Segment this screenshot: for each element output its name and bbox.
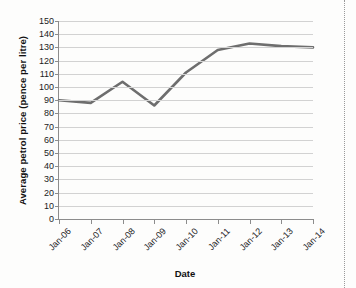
y-tick-mark <box>55 206 59 207</box>
x-tick-mark <box>281 219 282 224</box>
gridline-horizontal <box>59 140 313 141</box>
x-tick-label: Jan-12 <box>232 226 263 257</box>
y-tick-label: 40 <box>30 162 54 171</box>
gridline-horizontal <box>59 21 313 22</box>
x-tick-label: Jan-11 <box>201 226 232 257</box>
y-tick-label: 50 <box>30 149 54 158</box>
x-tick-label: Jan-14 <box>296 226 327 257</box>
y-axis-tick-labels: 0102030405060708090100110120130140150 <box>30 15 54 225</box>
x-tick-mark <box>123 219 124 224</box>
y-tick-mark <box>55 140 59 141</box>
y-tick-label: 110 <box>30 69 54 78</box>
x-tick-mark <box>250 219 251 224</box>
y-tick-label: 20 <box>30 188 54 197</box>
y-tick-mark <box>55 179 59 180</box>
x-tick-label: Jan-09 <box>137 226 168 257</box>
y-tick-label: 130 <box>30 43 54 52</box>
x-tick-label: Jan-08 <box>105 226 136 257</box>
line-chart-figure: Average petrol price (pence per litre) 0… <box>0 0 344 288</box>
y-tick-mark <box>55 100 59 101</box>
x-tick-label: Jan-07 <box>74 226 105 257</box>
x-tick-mark <box>313 219 314 224</box>
y-tick-mark <box>55 34 59 35</box>
x-tick-label: Jan-06 <box>42 226 73 257</box>
gridline-horizontal <box>59 153 313 154</box>
gridline-horizontal <box>59 179 313 180</box>
y-tick-label: 100 <box>30 83 54 92</box>
y-tick-label: 0 <box>30 215 54 224</box>
y-tick-label: 120 <box>30 56 54 65</box>
x-axis-tick-labels: Jan-06Jan-07Jan-08Jan-09Jan-10Jan-11Jan-… <box>58 226 312 266</box>
x-tick-mark <box>154 219 155 224</box>
y-tick-mark <box>55 61 59 62</box>
gridline-horizontal <box>59 61 313 62</box>
series-line-svg <box>59 21 313 219</box>
gridline-horizontal <box>59 87 313 88</box>
x-tick-label: Jan-13 <box>264 226 295 257</box>
gridline-horizontal <box>59 206 313 207</box>
x-tick-mark <box>59 219 60 224</box>
gridline-horizontal <box>59 166 313 167</box>
gridline-horizontal <box>59 127 313 128</box>
plot-area <box>58 21 313 219</box>
scanned-page: Average petrol price (pence per litre) 0… <box>0 0 356 288</box>
page-fold-dotted-line <box>344 0 345 288</box>
y-tick-label: 60 <box>30 135 54 144</box>
x-tick-mark <box>186 219 187 224</box>
y-tick-mark <box>55 21 59 22</box>
y-axis-title-text: Average petrol price (pence per litre) <box>18 35 29 204</box>
x-tick-mark <box>91 219 92 224</box>
gridline-horizontal <box>59 47 313 48</box>
y-tick-mark <box>55 193 59 194</box>
x-axis-title: Date <box>58 268 312 279</box>
y-tick-mark <box>55 153 59 154</box>
gridline-horizontal <box>59 100 313 101</box>
y-tick-label: 90 <box>30 96 54 105</box>
gridline-horizontal <box>59 34 313 35</box>
y-tick-mark <box>55 47 59 48</box>
y-tick-label: 10 <box>30 201 54 210</box>
y-tick-mark <box>55 166 59 167</box>
y-tick-mark <box>55 127 59 128</box>
x-tick-mark <box>218 219 219 224</box>
gridline-horizontal <box>59 113 313 114</box>
y-tick-mark <box>55 87 59 88</box>
gridline-horizontal <box>59 74 313 75</box>
y-tick-label: 30 <box>30 175 54 184</box>
y-tick-label: 150 <box>30 17 54 26</box>
y-tick-label: 70 <box>30 122 54 131</box>
gridline-horizontal <box>59 193 313 194</box>
y-tick-label: 140 <box>30 30 54 39</box>
x-tick-label: Jan-10 <box>169 226 200 257</box>
y-tick-label: 80 <box>30 109 54 118</box>
y-tick-mark <box>55 74 59 75</box>
y-tick-mark <box>55 113 59 114</box>
